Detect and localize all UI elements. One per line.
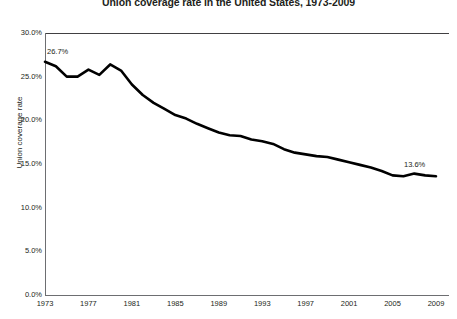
chart-container: Union coverage rate in the United States… bbox=[0, 0, 457, 319]
line-series-union-coverage-rate bbox=[0, 0, 457, 319]
series-polyline bbox=[45, 62, 436, 176]
data-point-label: 13.6% bbox=[404, 160, 425, 169]
data-point-label: 26.7% bbox=[47, 47, 68, 56]
